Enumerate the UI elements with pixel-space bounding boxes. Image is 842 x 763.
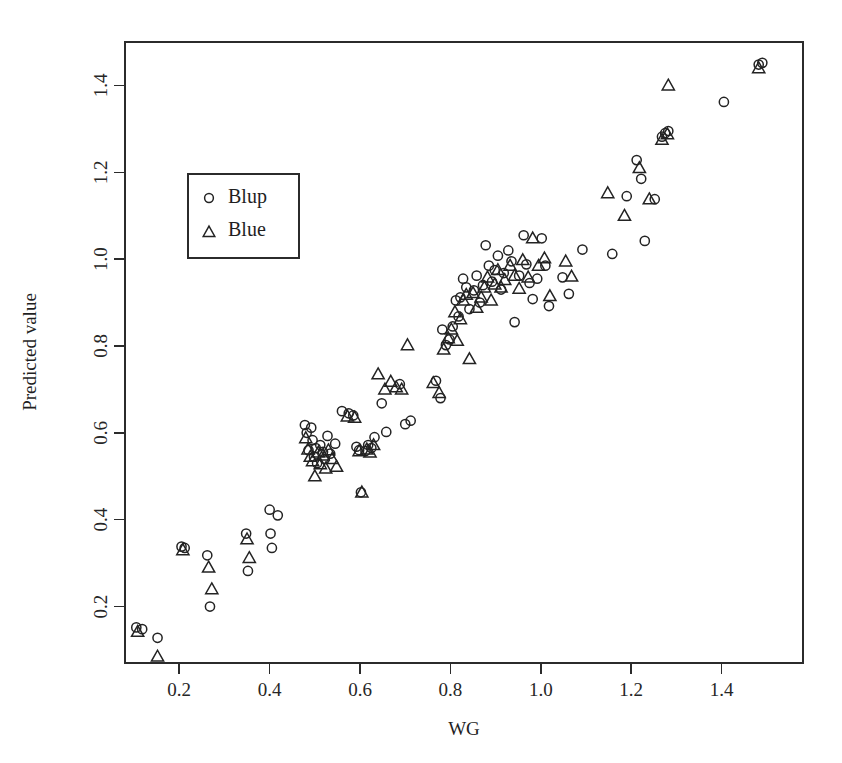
data-point-blup [528,294,537,303]
data-point-blup [504,246,513,255]
data-point-blue [544,290,556,301]
data-point-blue [560,255,572,266]
x-axis-tick-labels: 0.20.40.60.81.01.21.4 [167,679,734,700]
data-point-blue [243,552,255,563]
data-point-blup [578,245,587,254]
y-axis-ticks [114,85,125,606]
y-tick-label: 0.6 [90,421,111,445]
data-point-blue [401,339,413,350]
x-tick-label: 0.4 [258,679,282,700]
data-point-blup [544,301,553,310]
data-point-blue [602,187,614,198]
data-point-blue [662,79,674,90]
data-point-blup [640,236,649,245]
y-tick-label: 1.0 [90,247,111,271]
data-point-blup [519,231,528,240]
y-tick-label: 0.4 [90,507,111,531]
data-point-blup [265,505,274,514]
data-point-blup [205,602,214,611]
data-point-blup [719,97,728,106]
data-point-blue [372,368,384,379]
data-point-blup [243,566,252,575]
y-tick-label: 0.8 [90,334,111,358]
y-tick-label: 1.2 [90,160,111,184]
x-axis-title: WG [448,718,480,739]
data-point-blup [331,439,340,448]
data-point-blup [493,251,502,260]
data-point-blue [618,209,630,220]
data-point-blup [622,192,631,201]
data-point-blue [206,583,218,594]
data-point-blup [564,289,573,298]
x-tick-label: 0.6 [348,679,372,700]
x-tick-label: 1.0 [529,679,553,700]
data-point-blup [203,551,212,560]
data-point-blup [472,271,481,280]
series-blup-markers [132,58,767,642]
data-point-blue [203,561,215,572]
scatter-plot-figure: 0.20.40.60.81.01.21.4 0.20.40.60.81.01.2… [0,0,842,763]
series-blue-markers [132,62,765,661]
data-point-blup [153,633,162,642]
data-point-blue [513,282,525,293]
y-tick-label: 1.4 [90,73,111,97]
y-axis-tick-labels: 0.20.40.60.81.01.21.4 [90,73,111,618]
data-point-blue [433,387,445,398]
x-tick-label: 1.4 [710,679,734,700]
legend-label-blue: Blue [228,218,266,240]
data-point-blup [323,431,332,440]
x-axis-ticks [179,663,721,674]
data-point-blue [151,650,163,661]
data-point-blup [382,427,391,436]
data-point-blup [608,249,617,258]
data-point-blup [637,174,646,183]
x-tick-label: 1.2 [619,679,643,700]
data-point-blue [309,470,321,481]
data-point-blue [427,377,439,388]
legend: BlupBlue [188,174,299,258]
x-tick-label: 0.2 [167,679,191,700]
x-tick-label: 0.8 [439,679,463,700]
data-point-blup [377,399,386,408]
plot-canvas: 0.20.40.60.81.01.21.4 0.20.40.60.81.01.2… [0,0,842,763]
data-point-blup [267,543,276,552]
data-point-blup [266,529,275,538]
data-point-blup [273,511,282,520]
data-point-blup [481,241,490,250]
plot-frame [125,42,803,663]
data-point-blue [463,353,475,364]
legend-label-blup: Blup [228,185,267,208]
y-axis-title: Predicted value [19,293,40,411]
data-point-blup [510,318,519,327]
data-point-blup [458,274,467,283]
y-tick-label: 0.2 [90,595,111,619]
data-point-blue [485,294,497,305]
